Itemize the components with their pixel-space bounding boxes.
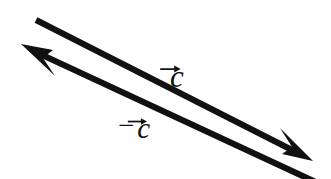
- vector-overarrow-icon: [127, 114, 148, 126]
- vector-c-glyph-stack: c: [170, 61, 184, 92]
- vector-diagram-canvas: c − c: [0, 0, 331, 179]
- vector-neg-c-glyph-stack: c: [137, 114, 150, 143]
- vector-arrows-svg: [0, 0, 331, 179]
- vector-c-shaft: [36, 20, 294, 151]
- vector-neg-c-label: − c: [118, 111, 150, 143]
- vector-overarrow-icon: [159, 61, 181, 73]
- vector-c-label: c: [170, 61, 184, 92]
